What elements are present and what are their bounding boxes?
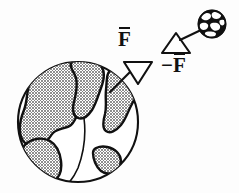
force-on-earth-symbol: F [118, 27, 131, 50]
force-on-ball-label: −F [161, 53, 186, 76]
small-ball-globe [199, 11, 226, 38]
physics-figure: F −F [0, 0, 239, 193]
force-on-earth-label: F [118, 27, 131, 50]
force-on-ball-symbol: F [173, 53, 186, 76]
force-on-ball-sign: − [161, 55, 173, 76]
